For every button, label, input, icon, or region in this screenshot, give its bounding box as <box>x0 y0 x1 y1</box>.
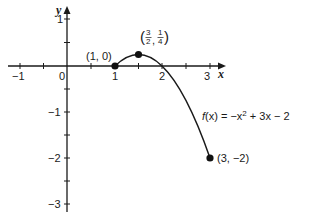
comma: , <box>152 34 155 46</box>
x-axis-label: x <box>217 67 224 81</box>
frac-y-num: 1 <box>158 28 163 37</box>
y-tick-label-neg3: −3 <box>48 198 61 210</box>
y-tick-label-1: 1 <box>57 13 63 25</box>
y-tick-label-neg1: −1 <box>48 106 61 118</box>
y-axis: y 1 −1 −2 −3 <box>48 3 71 212</box>
paren-open: ( <box>140 28 145 45</box>
y-tick-label-neg2: −2 <box>48 152 61 164</box>
x-tick-label-3: 3 <box>204 70 210 82</box>
x-tick-label-neg1: −1 <box>12 70 25 82</box>
function-label: f(x) = −x2 + 3x − 2 <box>202 109 290 122</box>
y-axis-arrow-icon <box>64 6 71 14</box>
point-3-neg2 <box>206 154 213 161</box>
function-tail: + 3x − 2 <box>247 110 290 122</box>
point-label-vertex: ( 3 2 , 1 4 ) <box>140 28 169 46</box>
frac-x-den: 2 <box>146 37 151 46</box>
point-label-3-neg2: (3, −2) <box>217 152 249 164</box>
x-tick-label-1: 1 <box>112 70 118 82</box>
frac-y-den: 4 <box>158 37 163 46</box>
function-graph: −1 0 1 2 3 x y 1 −1 −2 −3 (1, 0) ( 3 2 ,… <box>0 0 318 219</box>
paren-close: ) <box>164 28 169 45</box>
x-tick-label-2: 2 <box>159 70 165 82</box>
point-1-0 <box>111 62 118 69</box>
origin-label: 0 <box>59 70 65 82</box>
frac-x-num: 3 <box>146 28 151 37</box>
point-vertex <box>135 51 142 58</box>
function-rest: (x) = −x <box>205 110 243 122</box>
point-label-1-0: (1, 0) <box>86 50 112 62</box>
